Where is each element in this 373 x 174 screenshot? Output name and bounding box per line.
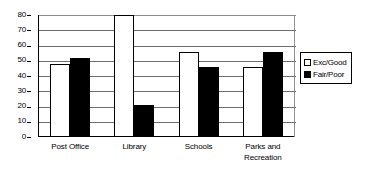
legend-label: Fair/Poor (313, 70, 344, 79)
legend-label: Exc/Good (313, 58, 347, 67)
y-tick-mark (27, 107, 31, 108)
y-tick-label: 50 (2, 56, 26, 64)
bar-exc-good (243, 67, 263, 137)
bar-fair-poor (263, 52, 283, 137)
bar-exc-good (179, 52, 199, 137)
bar-fair-poor (134, 105, 154, 137)
y-tick-label: 10 (2, 117, 26, 125)
legend-item-exc-good: Exc/Good (304, 56, 347, 68)
bar-group (38, 15, 102, 137)
y-tick-label: 0 (2, 133, 26, 141)
x-tick-label: Library (102, 141, 166, 152)
y-tick-label: 30 (2, 87, 26, 95)
x-axis-category-labels: Post OfficeLibrarySchoolsParks andRecrea… (38, 141, 295, 174)
y-tick-mark (27, 122, 31, 123)
bar-group (102, 15, 166, 137)
y-tick-label: 60 (2, 41, 26, 49)
x-tick-label: Schools (167, 141, 231, 152)
bar-fair-poor (70, 58, 90, 137)
y-tick-mark (27, 137, 31, 138)
x-tick-label-line: Parks and (231, 141, 295, 152)
x-tick-label-line: Schools (167, 141, 231, 152)
x-tick-label: Post Office (38, 141, 102, 152)
y-tick-mark (27, 46, 31, 47)
bars-layer (38, 15, 295, 137)
x-tick-label-line: Post Office (38, 141, 102, 152)
x-tick-label: Parks andRecreation (231, 141, 295, 163)
x-tick-label-line: Recreation (231, 152, 295, 163)
bar-group (231, 15, 295, 137)
y-tick-label: 80 (2, 11, 26, 19)
y-tick-mark (27, 30, 31, 31)
bar-fair-poor (199, 67, 219, 137)
y-tick-label: 20 (2, 102, 26, 110)
bar-chart: 01020304050607080 Post OfficeLibraryScho… (0, 0, 373, 174)
hollow-square-icon (304, 59, 311, 66)
legend-item-fair-poor: Fair/Poor (304, 68, 347, 80)
bar-exc-good (114, 15, 134, 137)
y-tick-mark (27, 61, 31, 62)
chart-legend: Exc/Good Fair/Poor (300, 52, 352, 84)
y-tick-mark (27, 15, 31, 16)
y-tick-mark (27, 91, 31, 92)
y-tick-mark (27, 76, 31, 77)
y-tick-label: 40 (2, 72, 26, 80)
bar-exc-good (50, 64, 70, 137)
y-axis: 01020304050607080 (0, 0, 38, 174)
filled-square-icon (304, 71, 311, 78)
x-tick-label-line: Library (102, 141, 166, 152)
y-tick-label: 70 (2, 26, 26, 34)
bar-group (167, 15, 231, 137)
